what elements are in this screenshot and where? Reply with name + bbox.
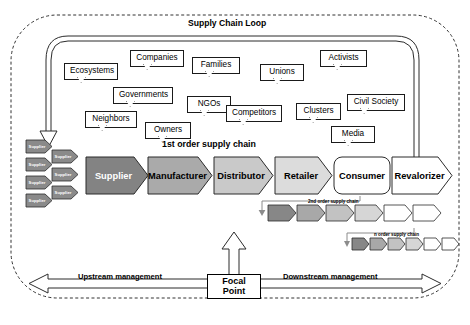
- downstream-management-label: Downstream management: [283, 272, 378, 281]
- chain-node-label: Consumer: [339, 171, 385, 181]
- n-order-shape-group: [352, 238, 459, 250]
- second-order-node: [326, 205, 354, 221]
- stakeholder-clusters: Clusters: [296, 103, 341, 120]
- n-order-supply-chain-label: n order supply chain: [374, 232, 419, 237]
- n-order-node: [406, 238, 423, 250]
- focal-point-line-2: Point: [213, 287, 255, 297]
- chain-node-distributor: Distributor: [214, 157, 273, 194]
- stakeholder-ecosystems: Ecosystems: [64, 63, 118, 80]
- first-order-supply-chain-label: 1st order supply chain: [162, 139, 256, 149]
- chain-node-retailer: Retailer: [275, 157, 332, 194]
- second-order-shape-group: [268, 205, 441, 221]
- stakeholder-neighbors: Neighbors: [85, 111, 137, 128]
- second-order-supply-chain-label: 2nd order supply chain: [308, 199, 359, 204]
- second-order-node: [268, 205, 296, 221]
- upstream-management-label: Upstream management: [78, 272, 162, 281]
- chain-node-revalorizer: Revalorizer: [392, 157, 452, 194]
- stakeholder-owners: Owners: [145, 122, 191, 139]
- second-order-node: [413, 205, 441, 221]
- mini-supplier-label: Supplier: [26, 140, 52, 153]
- mini-supplier-label: Supplier: [52, 186, 78, 199]
- mini-supplier-label: Supplier: [26, 158, 52, 171]
- chain-node-label: Retailer: [284, 171, 323, 181]
- second-order-node: [384, 205, 412, 221]
- supply-chain-loop-title: Supply Chain Loop: [188, 18, 266, 28]
- mini-supplier-label: Supplier: [26, 194, 52, 207]
- mini-supplier-label: Supplier: [26, 176, 52, 189]
- chain-node-supplier: Supplier: [86, 157, 146, 194]
- stakeholder-activists: Activists: [320, 50, 367, 67]
- second-order-node: [355, 205, 383, 221]
- stakeholder-families: Families: [192, 57, 240, 74]
- n-order-node: [388, 238, 405, 250]
- stakeholder-ngos: NGOs: [187, 96, 231, 113]
- chain-node-label: Revalorizer: [394, 171, 449, 181]
- mini-supplier-label: Supplier: [52, 150, 78, 163]
- chain-node-label: Supplier: [95, 171, 137, 181]
- chain-node-manufacturer: Manufacturer: [148, 157, 212, 194]
- chain-node-label: Manufacturer: [148, 171, 212, 181]
- chain-node-consumer: Consumer: [334, 157, 390, 194]
- stakeholder-competitors: Competitors: [226, 105, 282, 122]
- mini-supplier-label: Supplier: [52, 168, 78, 181]
- n-order-node: [442, 238, 459, 250]
- chain-node-label: Distributor: [217, 171, 270, 181]
- stakeholder-governments: Governments: [113, 87, 173, 104]
- second-order-node: [297, 205, 325, 221]
- stakeholder-civil-society: Civil Society: [347, 94, 405, 111]
- stakeholder-companies: Companies: [130, 50, 184, 67]
- n-order-node: [424, 238, 441, 250]
- stakeholder-media: Media: [331, 126, 375, 143]
- n-order-node: [370, 238, 387, 250]
- stakeholder-unions: Unions: [260, 64, 304, 81]
- focal-point-box: Focal Point: [207, 274, 261, 299]
- supply-chain-diagram: Supply Chain Loop EcosystemsCompaniesFam…: [0, 0, 470, 325]
- n-order-node: [352, 238, 369, 250]
